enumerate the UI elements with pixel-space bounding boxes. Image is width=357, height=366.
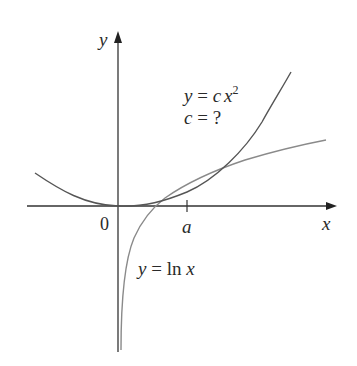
c-question-rest: = ? [192,107,221,128]
origin-label: 0 [100,214,109,234]
parabola-eq-equals: = [192,85,212,106]
y-axis-label: y [97,29,108,50]
parabola-eq-exponent: 2 [233,83,239,97]
parabola-curve [35,72,291,206]
parabola-eq-y: y [182,85,193,106]
c-question-label: c = ? [184,107,221,128]
log-eq-equals-ln: = ln [146,258,186,279]
x-axis-arrow-icon [326,202,337,210]
log-curve [121,140,326,350]
y-axis [114,31,122,352]
x-axis [27,202,337,210]
parabola-eq-c: c [213,85,222,106]
x-axis-label: x [321,213,331,234]
y-axis-arrow-icon [114,31,122,43]
parabola-equation-label: y = cx2 [182,83,239,106]
tick-a-label: a [182,216,192,237]
log-eq-y: y [136,258,147,279]
log-equation-label: y = ln x [136,258,195,279]
log-eq-x: x [185,258,195,279]
figure-canvas: y x 0 a y = cx2 c = ? y = ln x [0,0,357,366]
